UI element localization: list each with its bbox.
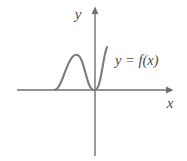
y-axis-label: y [73,6,82,22]
function-curve [55,47,107,90]
function-graph-figure: y x y = f(x) [0,0,187,161]
graph-canvas: y x y = f(x) [0,0,187,161]
x-axis-arrow-tip-icon [166,87,174,94]
curve-label: y = f(x) [113,52,159,69]
x-axis-label: x [166,95,174,111]
y-axis-arrow-tip-icon [92,7,99,15]
